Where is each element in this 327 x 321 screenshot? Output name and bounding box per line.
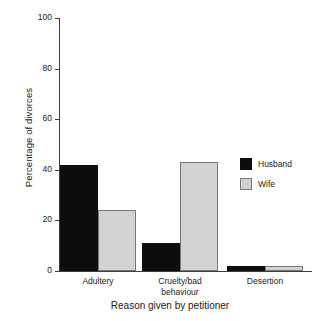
legend-swatch-husband-icon — [240, 158, 252, 170]
bar-group — [142, 18, 218, 271]
y-tick-label: 80 — [26, 64, 52, 73]
bar-husband-1 — [142, 243, 180, 271]
y-tick-label: 0 — [26, 266, 52, 275]
plot-area — [59, 18, 312, 271]
legend-label-husband: Husband — [258, 159, 292, 169]
bar-wife-1 — [180, 162, 218, 271]
y-tick-mark — [55, 271, 59, 272]
y-tick-label: 20 — [26, 215, 52, 224]
bar-husband-2 — [227, 266, 265, 271]
x-axis-title: Reason given by petitioner — [40, 300, 300, 311]
y-tick-label: 60 — [26, 114, 52, 123]
legend-swatch-wife-icon — [240, 178, 252, 190]
bar-wife-0 — [98, 210, 136, 271]
x-category-label-line: Desertion — [210, 276, 320, 287]
bar-group — [227, 18, 303, 271]
y-axis-title: Percentage of divorces — [23, 53, 34, 223]
x-category-label-line: behaviour — [125, 287, 235, 298]
bar-group — [60, 18, 136, 271]
x-axis-line — [59, 271, 312, 272]
y-tick-label: 100 — [26, 13, 52, 22]
bar-husband-0 — [60, 165, 98, 271]
bar-wife-2 — [265, 266, 303, 271]
bar-chart: Percentage of divorces 020406080100 Adul… — [0, 0, 327, 321]
x-category-label: Desertion — [210, 276, 320, 287]
y-tick-label: 40 — [26, 165, 52, 174]
legend-label-wife: Wife — [258, 179, 275, 189]
